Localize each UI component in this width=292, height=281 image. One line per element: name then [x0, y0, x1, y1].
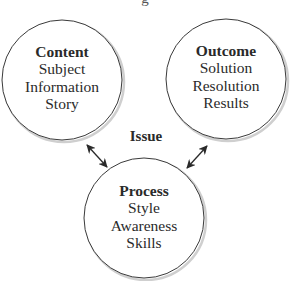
process-title: Process — [84, 182, 204, 199]
content-title: Content — [2, 43, 122, 60]
outcome-line: Resolution — [166, 77, 286, 94]
outcome-node-text: Outcome Solution Resolution Results — [166, 42, 286, 111]
process-node-text: Process Style Awareness Skills — [84, 182, 204, 251]
content-line: Subject — [2, 60, 122, 77]
outcome-line: Solution — [166, 59, 286, 76]
issue-label: Issue — [116, 128, 176, 145]
outcome-title: Outcome — [166, 42, 286, 59]
content-node-text: Content Subject Information Story — [2, 43, 122, 112]
process-line: Skills — [84, 234, 204, 251]
process-line: Style — [84, 199, 204, 216]
outcome-line: Results — [166, 94, 286, 111]
content-process-arrow — [87, 145, 107, 167]
content-line: Information — [2, 78, 122, 95]
process-line: Awareness — [84, 217, 204, 234]
content-line: Story — [2, 95, 122, 112]
outcome-process-arrow — [187, 146, 207, 168]
